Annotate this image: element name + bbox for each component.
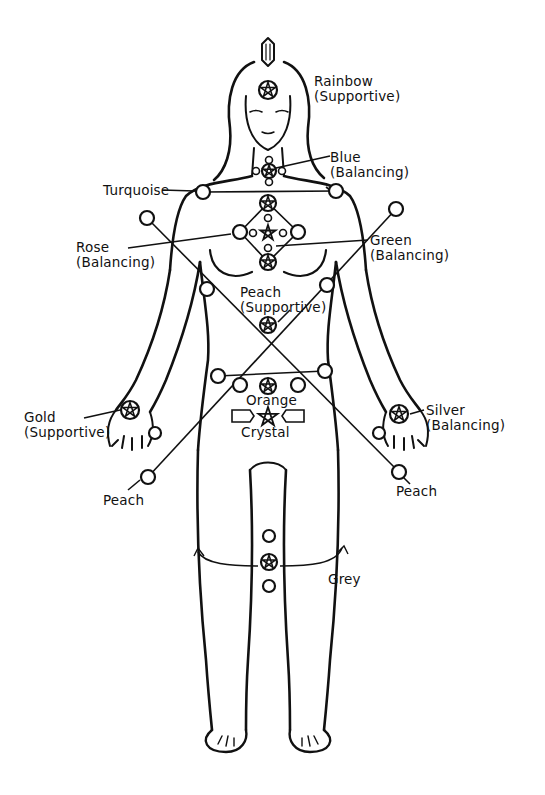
label-blue-name: Blue bbox=[330, 150, 409, 165]
crystal-circle-rose-left bbox=[233, 225, 247, 239]
crystal-body-diagram: Rainbow(Supportive)Blue(Balancing)Turquo… bbox=[0, 0, 545, 795]
label-rainbow-role: (Supportive) bbox=[314, 89, 400, 104]
label-orange-name: Orange bbox=[246, 393, 297, 408]
label-turquoise: Turquoise bbox=[103, 183, 169, 198]
crystal-dot-heart-upper bbox=[265, 215, 272, 222]
crystal-circle-thigh-left bbox=[149, 427, 161, 439]
crystal-dot-throat-left bbox=[253, 168, 260, 175]
star-icon-crystal-pubic bbox=[259, 407, 278, 425]
label-turquoise-name: Turquoise bbox=[103, 183, 169, 198]
label-peach-center-name: Peach bbox=[240, 285, 326, 300]
crystal-circle-thigh-right bbox=[373, 427, 385, 439]
label-silver: Silver(Balancing) bbox=[426, 403, 505, 433]
label-blue: Blue(Balancing) bbox=[330, 150, 409, 180]
label-rose-role: (Balancing) bbox=[76, 255, 155, 270]
label-grey-name: Grey bbox=[328, 572, 361, 587]
label-rainbow-name: Rainbow bbox=[314, 74, 400, 89]
crystal-circle-peach-left-foot bbox=[141, 470, 155, 484]
crystal-circle-cross-upper-right bbox=[389, 202, 403, 216]
label-gold-role: (Supportive) bbox=[24, 425, 110, 440]
label-crystal: Crystal bbox=[241, 425, 290, 440]
crystal-circle-cross-upper-left bbox=[140, 211, 154, 225]
label-peach-right: Peach bbox=[396, 484, 437, 499]
star-icon-heart-center bbox=[260, 225, 275, 240]
label-silver-name: Silver bbox=[426, 403, 505, 418]
label-orange: Orange bbox=[246, 393, 297, 408]
crystal-dot-throat-bottom bbox=[266, 179, 273, 186]
label-peach-center-role: (Supportive) bbox=[240, 300, 326, 315]
crystal-circle-hip-inner-left bbox=[233, 378, 247, 392]
crystal-circle-knee-below bbox=[263, 580, 275, 592]
crystal-circle-rose-right bbox=[291, 225, 305, 239]
crystal-circle-hip-inner-right bbox=[291, 378, 305, 392]
label-peach-center: Peach(Supportive) bbox=[240, 285, 326, 315]
crystal-dot-heart-lower bbox=[265, 245, 272, 252]
crystal-dot-heart-right bbox=[280, 230, 287, 237]
label-green-role: (Balancing) bbox=[370, 248, 449, 263]
label-rainbow: Rainbow(Supportive) bbox=[314, 74, 400, 104]
crystal-circle-turquoise-left bbox=[196, 185, 210, 199]
label-peach-left: Peach bbox=[103, 493, 144, 508]
label-crystal-name: Crystal bbox=[241, 425, 290, 440]
label-gold: Gold(Supportive) bbox=[24, 410, 110, 440]
label-peach-left-name: Peach bbox=[103, 493, 144, 508]
label-gold-name: Gold bbox=[24, 410, 110, 425]
label-grey: Grey bbox=[328, 572, 361, 587]
crystal-circle-knee-above bbox=[263, 530, 275, 542]
crystal-dot-throat-right bbox=[279, 168, 286, 175]
label-blue-role: (Balancing) bbox=[330, 165, 409, 180]
label-rose-name: Rose bbox=[76, 240, 155, 255]
crystal-circle-hip-outer-right bbox=[318, 364, 332, 378]
crystal-dot-throat-top bbox=[266, 157, 273, 164]
label-peach-right-name: Peach bbox=[396, 484, 437, 499]
label-rose: Rose(Balancing) bbox=[76, 240, 155, 270]
crystal-circle-peach-right-foot bbox=[392, 465, 406, 479]
crystal-circle-hip-outer-left bbox=[211, 369, 225, 383]
crystal-dot-heart-left bbox=[250, 230, 257, 237]
label-green: Green(Balancing) bbox=[370, 233, 449, 263]
crystal-circle-cross-mid-left bbox=[200, 282, 214, 296]
label-silver-role: (Balancing) bbox=[426, 418, 505, 433]
crystal-circle-turquoise-right bbox=[329, 184, 343, 198]
label-green-name: Green bbox=[370, 233, 449, 248]
